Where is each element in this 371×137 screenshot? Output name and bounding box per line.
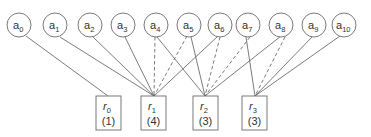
edges — [26, 36, 340, 96]
top-nodes: a0 a1 a2 a3 a4 a5 a6 a7 — [7, 13, 356, 37]
node-a1: a1 — [43, 13, 67, 37]
edge-a8-r2 — [205, 36, 281, 96]
node-a6: a6 — [208, 13, 232, 37]
bottom-nodes: r0 (1) r1 (4) r2 (3) r3 (3) — [96, 96, 267, 130]
edge-a8-r3 — [255, 37, 285, 96]
node-r0: r0 (1) — [96, 96, 121, 130]
node-a5: a5 — [177, 13, 201, 37]
node-a10: a10 — [332, 13, 356, 37]
node-a9: a9 — [302, 13, 326, 37]
node-r3: r3 (3) — [242, 96, 267, 130]
edge-a4-r1 — [154, 37, 155, 96]
edge-a7-r2 — [205, 37, 250, 96]
edge-a2-r1 — [93, 37, 154, 96]
node-a7: a7 — [236, 13, 260, 37]
bipartite-diagram: a0 a1 a2 a3 a4 a5 a6 a7 — [0, 0, 371, 137]
edge-a10-r3 — [255, 36, 340, 96]
edge-a5-r1 — [154, 36, 187, 96]
node-a4: a4 — [144, 13, 168, 37]
edge-a7-r3 — [246, 37, 255, 96]
node-a3: a3 — [111, 13, 135, 37]
node-a0: a0 — [7, 13, 31, 37]
svg-text:(3): (3) — [248, 115, 261, 127]
node-a2: a2 — [78, 13, 102, 37]
edge-a9-r3 — [255, 36, 313, 96]
node-r2: r2 (3) — [193, 96, 218, 130]
svg-text:(4): (4) — [147, 115, 160, 127]
node-a8: a8 — [269, 13, 293, 37]
edge-a0-r0 — [26, 36, 108, 96]
node-r1: r1 (4) — [141, 96, 166, 130]
svg-text:(1): (1) — [102, 115, 115, 127]
svg-text:(3): (3) — [199, 115, 212, 127]
